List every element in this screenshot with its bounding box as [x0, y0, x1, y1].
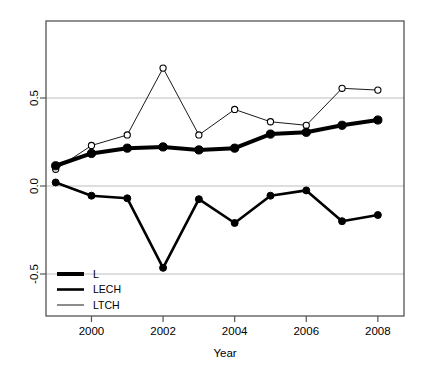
data-point — [375, 87, 381, 93]
y-tick-label-0.5: 0.5 — [28, 90, 40, 106]
y-tick-label--0.5: -0.5 — [28, 264, 40, 284]
x-tick-label-2002: 2002 — [150, 325, 176, 337]
data-point — [195, 146, 203, 154]
data-point — [303, 122, 309, 128]
legend-label-LTCH: LTCH — [93, 299, 120, 311]
legend-label-L: L — [93, 268, 99, 280]
data-point — [196, 132, 202, 138]
x-tick-label-2006: 2006 — [293, 325, 319, 337]
x-axis-title: Year — [213, 347, 236, 359]
data-point — [266, 130, 274, 138]
x-tick-label-2000: 2000 — [79, 325, 105, 337]
data-point — [374, 116, 382, 124]
data-point — [232, 106, 238, 112]
data-point — [52, 179, 59, 186]
data-point — [267, 119, 273, 125]
data-point — [302, 128, 310, 136]
data-point — [124, 195, 131, 202]
y-tick-label-0.0: 0.0 — [28, 178, 40, 194]
data-point — [231, 219, 238, 226]
chart-background — [0, 0, 421, 384]
data-point — [52, 162, 60, 170]
data-point — [303, 187, 310, 194]
data-point — [160, 65, 166, 71]
data-point — [339, 85, 345, 91]
chart-figure: 20002002200420062008 0.50.0-0.5 Year LLE… — [0, 0, 421, 384]
data-point — [88, 192, 95, 199]
x-tick-label-2008: 2008 — [365, 325, 391, 337]
data-point — [338, 121, 346, 129]
data-point — [267, 192, 274, 199]
data-point — [87, 149, 95, 157]
data-point — [160, 264, 167, 271]
data-point — [124, 132, 130, 138]
data-point — [339, 218, 346, 225]
data-point — [123, 144, 131, 152]
legend-label-LECH: LECH — [93, 283, 121, 295]
x-tick-label-2004: 2004 — [222, 325, 248, 337]
data-point — [231, 144, 239, 152]
data-point — [374, 212, 381, 219]
data-point — [195, 196, 202, 203]
data-point — [88, 142, 94, 148]
data-point — [159, 143, 167, 151]
line-chart: 20002002200420062008 0.50.0-0.5 Year LLE… — [0, 0, 421, 384]
